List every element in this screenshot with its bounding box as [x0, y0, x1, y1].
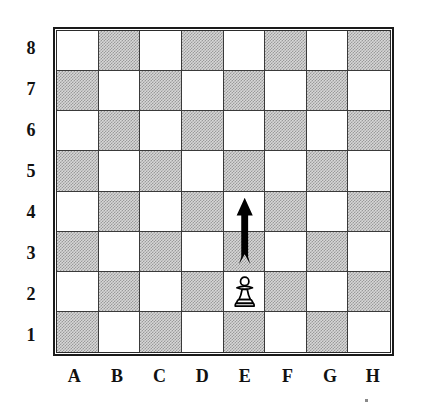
square-a1[interactable] — [57, 312, 99, 352]
square-g2[interactable] — [307, 272, 349, 312]
square-a5[interactable] — [57, 151, 99, 191]
rank-label-4: 4 — [14, 192, 48, 233]
square-c4[interactable] — [140, 192, 182, 232]
square-c1[interactable] — [140, 312, 182, 352]
square-d2[interactable] — [182, 272, 224, 312]
square-b5[interactable] — [99, 151, 141, 191]
arrow-up-icon[interactable] — [224, 197, 266, 265]
square-c6[interactable] — [140, 111, 182, 151]
file-label-g: G — [309, 362, 352, 390]
square-e7[interactable] — [224, 71, 266, 111]
square-g5[interactable] — [307, 151, 349, 191]
square-a4[interactable] — [57, 192, 99, 232]
square-g7[interactable] — [307, 71, 349, 111]
square-g1[interactable] — [307, 312, 349, 352]
square-a6[interactable] — [57, 111, 99, 151]
square-c2[interactable] — [140, 272, 182, 312]
square-d8[interactable] — [182, 31, 224, 71]
square-c8[interactable] — [140, 31, 182, 71]
square-f6[interactable] — [265, 111, 307, 151]
board-inner — [56, 30, 391, 353]
square-d7[interactable] — [182, 71, 224, 111]
square-h6[interactable] — [348, 111, 390, 151]
square-f5[interactable] — [265, 151, 307, 191]
file-label-d: D — [181, 362, 224, 390]
file-label-row: A B C D E F G H — [53, 362, 394, 390]
file-label-e: E — [224, 362, 267, 390]
square-a3[interactable] — [57, 232, 99, 272]
square-e1[interactable] — [224, 312, 266, 352]
square-h7[interactable] — [348, 71, 390, 111]
rank-label-column: 8 7 6 5 4 3 2 1 — [14, 27, 48, 356]
square-e6[interactable] — [224, 111, 266, 151]
square-b6[interactable] — [99, 111, 141, 151]
square-b3[interactable] — [99, 232, 141, 272]
square-d3[interactable] — [182, 232, 224, 272]
square-f4[interactable] — [265, 192, 307, 232]
square-b8[interactable] — [99, 31, 141, 71]
file-label-f: F — [266, 362, 309, 390]
board-frame — [53, 27, 394, 356]
square-d6[interactable] — [182, 111, 224, 151]
square-g8[interactable] — [307, 31, 349, 71]
file-label-c: C — [138, 362, 181, 390]
square-f3[interactable] — [265, 232, 307, 272]
square-b4[interactable] — [99, 192, 141, 232]
square-b2[interactable] — [99, 272, 141, 312]
square-e5[interactable] — [224, 151, 266, 191]
square-a2[interactable] — [57, 272, 99, 312]
square-f1[interactable] — [265, 312, 307, 352]
square-h2[interactable] — [348, 272, 390, 312]
square-f2[interactable] — [265, 272, 307, 312]
file-label-b: B — [96, 362, 139, 390]
square-h1[interactable] — [348, 312, 390, 352]
chess-diagram: 8 7 6 5 4 3 2 1 A B C D E F G H — [0, 0, 422, 412]
square-b7[interactable] — [99, 71, 141, 111]
square-d1[interactable] — [182, 312, 224, 352]
square-f8[interactable] — [265, 31, 307, 71]
file-label-a: A — [53, 362, 96, 390]
rank-label-7: 7 — [14, 68, 48, 109]
square-h4[interactable] — [348, 192, 390, 232]
square-h5[interactable] — [348, 151, 390, 191]
rank-label-2: 2 — [14, 274, 48, 315]
square-h3[interactable] — [348, 232, 390, 272]
square-b1[interactable] — [99, 312, 141, 352]
rank-label-6: 6 — [14, 109, 48, 150]
square-a8[interactable] — [57, 31, 99, 71]
square-g3[interactable] — [307, 232, 349, 272]
square-d4[interactable] — [182, 192, 224, 232]
square-g4[interactable] — [307, 192, 349, 232]
rank-label-1: 1 — [14, 315, 48, 356]
square-c3[interactable] — [140, 232, 182, 272]
square-c5[interactable] — [140, 151, 182, 191]
square-f7[interactable] — [265, 71, 307, 111]
square-a7[interactable] — [57, 71, 99, 111]
square-h8[interactable] — [348, 31, 390, 71]
square-d5[interactable] — [182, 151, 224, 191]
rank-label-5: 5 — [14, 150, 48, 191]
file-label-h: H — [351, 362, 394, 390]
square-e8[interactable] — [224, 31, 266, 71]
rank-label-8: 8 — [14, 27, 48, 68]
scan-artifact-speck — [365, 399, 368, 402]
pawn-icon[interactable] — [224, 272, 266, 312]
rank-label-3: 3 — [14, 233, 48, 274]
square-c7[interactable] — [140, 71, 182, 111]
square-g6[interactable] — [307, 111, 349, 151]
